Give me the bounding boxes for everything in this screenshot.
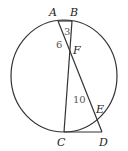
length-fe: 10 xyxy=(73,94,86,105)
label-f: F xyxy=(72,44,81,57)
geometry-diagram: A B F E C D 3 6 10 xyxy=(0,0,128,151)
label-e: E xyxy=(95,103,104,116)
label-d: D xyxy=(98,136,108,149)
length-bf: 3 xyxy=(64,26,70,37)
label-b: B xyxy=(69,6,78,19)
length-af: 6 xyxy=(56,39,62,50)
label-c: C xyxy=(57,136,66,149)
label-a: A xyxy=(48,6,57,19)
